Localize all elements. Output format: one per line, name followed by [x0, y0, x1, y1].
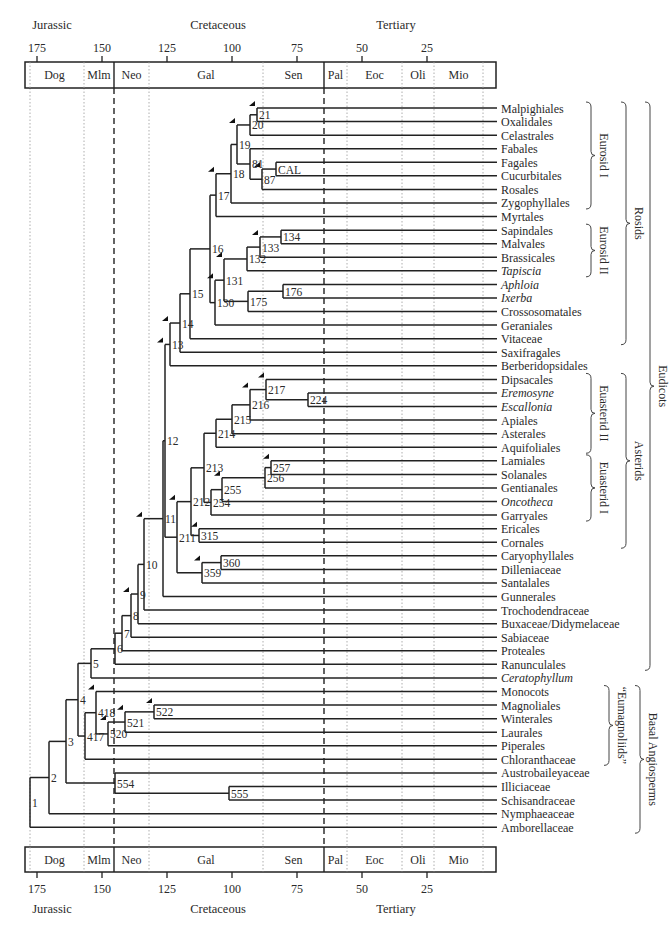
- clade-label: Rosids: [632, 207, 646, 240]
- node-label-9: 9: [140, 589, 146, 601]
- axis-tick-label: 175: [28, 41, 46, 55]
- clade-label: “Eumagnoliids”: [615, 687, 629, 764]
- calibration-arrow-icon: [169, 495, 175, 500]
- node-label-215: 215: [234, 414, 252, 426]
- taxon-label: Buxaceae/Didymelaceae: [501, 617, 620, 631]
- tree-branches: 2120CAL878119181713413313217617513113016…: [30, 101, 497, 827]
- node-label-8: 8: [133, 610, 139, 622]
- node-label-360: 360: [223, 557, 241, 569]
- node-label-520: 520: [110, 728, 128, 740]
- node-label-17: 17: [218, 190, 230, 202]
- node-label-217: 217: [268, 384, 286, 396]
- taxon-label: Winterales: [501, 712, 553, 726]
- period-label-tertiary: Tertiary: [376, 18, 416, 32]
- epoch-label-pal: Pal: [328, 853, 344, 867]
- calibration-arrow-icon: [208, 167, 214, 172]
- clade-brackets: Eurosid IEurosid IIEuasterid IIEuasterid…: [586, 102, 670, 833]
- node-label-7: 7: [124, 628, 130, 640]
- calibration-arrow-icon: [191, 522, 197, 527]
- axis-tick-label: 25: [421, 41, 433, 55]
- taxon-label: Dilleniaceae: [501, 563, 561, 577]
- node-label-1: 1: [32, 797, 38, 809]
- axis-tick-label: 150: [93, 41, 111, 55]
- node-label-315: 315: [201, 530, 219, 542]
- taxon-label: Oxalidales: [501, 115, 553, 129]
- taxon-label: Piperales: [501, 739, 545, 753]
- node-label-224: 224: [310, 394, 328, 406]
- axis-tick-label: 25: [421, 882, 433, 896]
- taxon-label: Lamiales: [501, 454, 545, 468]
- calibration-arrow-icon: [242, 383, 248, 388]
- clade-label: Eurosid I: [597, 133, 611, 177]
- taxon-label: Saxifragales: [501, 346, 561, 360]
- node-label-417: 417: [87, 731, 105, 743]
- bracket-eumagnoliids: [604, 686, 613, 766]
- phylogeny-diagram: DogMlmNeoGalSenPalEocOliMio1751501251007…: [0, 0, 672, 932]
- node-label-175: 175: [250, 296, 268, 308]
- taxon-label: Laurales: [501, 726, 543, 740]
- node-label-6: 6: [117, 643, 123, 655]
- axis-tick-label: 75: [291, 41, 303, 55]
- node-label-521: 521: [127, 717, 145, 729]
- period-label-tertiary: Tertiary: [376, 902, 416, 916]
- bracket-eurosid-ii: [586, 224, 595, 277]
- clade-label: Eurosid II: [597, 226, 611, 274]
- taxon-label: Monocots: [501, 685, 549, 699]
- node-label-19: 19: [239, 139, 251, 151]
- node-label-555: 555: [231, 788, 249, 800]
- taxon-label: Apiales: [501, 414, 538, 428]
- node-label-216: 216: [252, 399, 270, 411]
- clade-label: Euasterid I: [597, 462, 611, 514]
- taxon-label: Aphloia: [500, 278, 539, 292]
- node-label-522: 522: [156, 706, 174, 718]
- taxon-label: Schisandraceae: [501, 794, 575, 808]
- taxon-label: Proteales: [501, 644, 545, 658]
- node-label-16: 16: [212, 243, 224, 255]
- epoch-label-oli: Oli: [410, 68, 426, 82]
- calibration-arrow-icon: [194, 556, 200, 561]
- node-label-255: 255: [224, 484, 242, 496]
- taxon-label: Ranunculales: [501, 658, 566, 672]
- calibration-arrow-icon: [123, 587, 129, 592]
- node-label-4: 4: [80, 694, 86, 706]
- bracket-eudicots: [645, 102, 654, 670]
- taxon-label: Aquifoliales: [501, 441, 561, 455]
- bracket-eurosid-i: [586, 102, 595, 209]
- calibration-arrow-icon: [258, 372, 264, 377]
- taxon-label: Nymphaeaceae: [501, 807, 574, 821]
- taxon-label: Gunnerales: [501, 590, 556, 604]
- taxon-label: Crossosomatales: [501, 305, 582, 319]
- taxon-label: Solanales: [501, 468, 547, 482]
- taxon-label: Rosales: [501, 183, 539, 197]
- bottom-time-scale: DogMlmNeoGalSenPalEocOliMio1751501251007…: [25, 847, 496, 916]
- epoch-label-mio: Mio: [448, 68, 468, 82]
- epoch-label-dog: Dog: [44, 853, 65, 867]
- node-label-256: 256: [267, 472, 285, 484]
- taxon-label: Sapindales: [501, 224, 553, 238]
- epoch-label-eoc: Eoc: [365, 853, 384, 867]
- taxon-label: Malpighiales: [501, 102, 564, 116]
- taxon-label: Dipsacales: [501, 373, 553, 387]
- node-label-132: 132: [249, 253, 267, 265]
- taxon-label: Eremosyne: [500, 386, 555, 400]
- taxon-label: Fabales: [501, 142, 538, 156]
- bracket-euasterid-ii: [586, 373, 595, 453]
- clade-label: Euasterid II: [597, 385, 611, 441]
- node-label-CAL: CAL: [278, 164, 301, 176]
- taxon-label: Austrobaileyaceae: [501, 766, 590, 780]
- bracket-basal-angiosperms: [635, 686, 644, 834]
- axis-tick-label: 50: [356, 41, 368, 55]
- taxon-label: Cucurbitales: [501, 169, 562, 183]
- period-label-jurassic: Jurassic: [32, 902, 72, 916]
- taxon-label: Illiciaceae: [501, 780, 550, 794]
- node-label-15: 15: [192, 288, 204, 300]
- clade-label: Asterids: [632, 441, 646, 481]
- node-label-134: 134: [283, 231, 301, 243]
- taxon-label: Asterales: [501, 427, 546, 441]
- calibration-arrow-icon: [162, 316, 168, 321]
- taxon-label: Vitaceae: [501, 332, 542, 346]
- taxon-label: Oncotheca: [501, 495, 553, 509]
- taxon-label: Zygophyllales: [501, 196, 570, 210]
- calibration-arrow-icon: [88, 685, 94, 690]
- calibration-arrow-icon: [157, 337, 163, 342]
